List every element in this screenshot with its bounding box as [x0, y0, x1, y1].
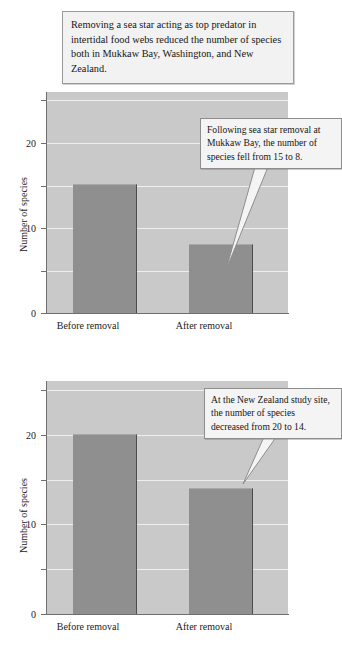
chart2-y-axis-title: Number of species	[18, 478, 29, 553]
chart2-x-axis-line	[46, 614, 289, 615]
chart2-callout-text: At the New Zealand study site, the numbe…	[211, 394, 330, 432]
chart2-callout-box: At the New Zealand study site, the numbe…	[204, 388, 342, 439]
chart1-callout-box: Following sea star removal at Mukkaw Bay…	[200, 118, 342, 169]
chart2-bar-before-removal	[73, 434, 137, 614]
chart2-ytick-label-0: 0	[8, 610, 36, 620]
chart2-ytick-label-10: 10	[8, 520, 36, 530]
chart1-callout-text: Following sea star removal at Mukkaw Bay…	[207, 124, 321, 162]
chart2-xtick-label-after: After removal	[158, 622, 250, 632]
chart2-ytick-label-20: 20	[8, 431, 36, 441]
chart2-xtick-label-before: Before removal	[42, 622, 134, 632]
chart2-ytick-0	[41, 614, 47, 615]
chart2-bar-after-removal	[189, 488, 253, 614]
chart-new-zealand: Number of species 0 10 20 Before removal…	[0, 0, 342, 645]
